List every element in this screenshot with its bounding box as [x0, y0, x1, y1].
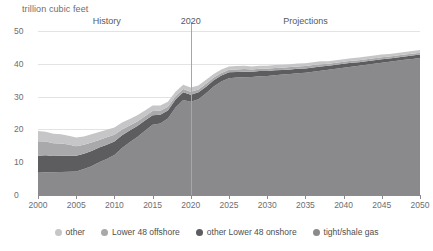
area-band	[38, 58, 420, 195]
x-axis-tick-label: 2045	[372, 200, 391, 210]
x-axis-tick-mark	[76, 195, 77, 199]
x-axis-tick-mark	[153, 195, 154, 199]
legend-item[interactable]: tight/shale gas	[313, 227, 379, 237]
legend-item[interactable]: Lower 48 offshore	[101, 227, 180, 237]
x-axis-tick-label: 2040	[334, 200, 353, 210]
legend-label: other	[66, 227, 85, 237]
x-axis-tick-label: 2005	[67, 200, 86, 210]
legend-swatch-icon	[101, 229, 108, 236]
legend-item[interactable]: other Lower 48 onshore	[196, 227, 297, 237]
x-axis-tick-mark	[229, 195, 230, 199]
x-axis-tick-mark	[191, 195, 192, 199]
x-axis-tick-mark	[420, 195, 421, 199]
x-axis-tick-mark	[38, 195, 39, 199]
legend-label: other Lower 48 onshore	[207, 227, 297, 237]
annotation-history: History	[93, 16, 121, 26]
x-axis-tick-label: 2010	[105, 200, 124, 210]
x-axis-tick-label: 2020	[181, 200, 200, 210]
legend-swatch-icon	[196, 229, 203, 236]
x-axis-tick-labels: 2000200520102015202020252030203520402045…	[0, 198, 433, 214]
annotation-year-2020: 2020	[181, 16, 201, 26]
chart-legend: otherLower 48 offshoreother Lower 48 ons…	[0, 224, 433, 240]
legend-swatch-icon	[55, 229, 62, 236]
legend-swatch-icon	[313, 229, 320, 236]
x-axis-tick-mark	[382, 195, 383, 199]
legend-item[interactable]: other	[55, 227, 85, 237]
x-axis-tick-mark	[267, 195, 268, 199]
x-axis-tick-mark	[114, 195, 115, 199]
history-projection-divider	[191, 22, 192, 195]
x-axis-tick-label: 2015	[143, 200, 162, 210]
x-axis-tick-mark	[305, 195, 306, 199]
x-axis-tick-mark	[344, 195, 345, 199]
x-axis-tick-label: 2035	[296, 200, 315, 210]
legend-label: Lower 48 offshore	[112, 227, 180, 237]
x-axis-tick-label: 2030	[258, 200, 277, 210]
legend-label: tight/shale gas	[324, 227, 379, 237]
x-axis-tick-label: 2025	[220, 200, 239, 210]
x-axis-tick-label: 2050	[411, 200, 430, 210]
chart-container: trillion cubic feet 01020304050 History …	[0, 0, 433, 251]
annotation-projections: Projections	[283, 16, 328, 26]
x-axis-tick-label: 2000	[29, 200, 48, 210]
